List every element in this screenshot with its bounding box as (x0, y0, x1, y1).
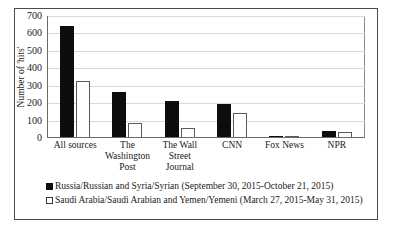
bar (217, 104, 231, 138)
x-axis-category-label: NPR (311, 140, 363, 173)
bar (128, 123, 142, 138)
legend-swatch-open-white-square (46, 197, 53, 204)
y-axis-tick-label: 600 (4, 28, 42, 38)
y-axis-tick-label: 0 (4, 133, 42, 143)
bar (112, 92, 126, 138)
bar (233, 113, 247, 138)
plot-area (47, 16, 365, 138)
y-axis-tick-label: 200 (4, 98, 42, 108)
legend-swatch-filled-black-square (46, 183, 53, 190)
bar (165, 101, 179, 138)
y-axis-tick-label: 300 (4, 81, 42, 91)
x-axis-category-label: TheWashingtonPost (101, 140, 153, 173)
x-axis-category-label: CNN (206, 140, 258, 173)
bar-groups (47, 16, 365, 138)
bar (60, 26, 74, 138)
bar-group (49, 16, 101, 138)
y-axis-tick-label: 100 (4, 116, 42, 126)
y-axis-tick-label: 400 (4, 63, 42, 73)
legend-label: Saudi Arabia/Saudi Arabian and Yemen/Yem… (55, 194, 363, 206)
bar-group (154, 16, 206, 138)
legend-item: Saudi Arabia/Saudi Arabian and Yemen/Yem… (46, 194, 366, 206)
figure-container: Number of 'hits' 0100200300400500600700 … (0, 0, 395, 235)
x-axis-category-label: The WallStreet Journal (154, 140, 206, 173)
legend-label: Russia/Russian and Syria/Syrian (Septemb… (55, 180, 333, 192)
x-axis-category-label: Fox News (258, 140, 310, 173)
legend-item: Russia/Russian and Syria/Syrian (Septemb… (46, 180, 366, 192)
x-axis-category-labels: All sourcesTheWashingtonPostThe WallStre… (47, 140, 365, 173)
chart-legend: Russia/Russian and Syria/Syrian (Septemb… (46, 180, 366, 208)
bar-group (311, 16, 363, 138)
bar (76, 81, 90, 139)
y-axis-tick-label: 500 (4, 46, 42, 56)
y-axis-line (47, 16, 48, 138)
bar-group (206, 16, 258, 138)
bar-group (101, 16, 153, 138)
x-axis-line (47, 137, 365, 138)
x-axis-category-label: All sources (49, 140, 101, 173)
y-axis-tick-label: 700 (4, 11, 42, 21)
bar-group (258, 16, 310, 138)
